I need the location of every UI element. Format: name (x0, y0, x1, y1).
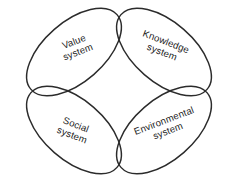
petal-social-system: Social system (11, 70, 136, 183)
petal-label-environmental-system: Environmental system (132, 104, 199, 147)
venn-diagram-canvas: Value system Knowledge system Social sys… (0, 0, 239, 183)
petal-value-system: Value system (11, 0, 136, 112)
petal-environmental-system: Environmental system (101, 70, 226, 183)
petal-label-knowledge-system: Knowledge system (137, 28, 190, 66)
venn-diagram: Value system Knowledge system Social sys… (0, 0, 239, 183)
petal-knowledge-system: Knowledge system (101, 0, 226, 112)
petal-label-social-system: Social system (56, 114, 93, 146)
petal-label-value-system: Value system (57, 31, 94, 63)
